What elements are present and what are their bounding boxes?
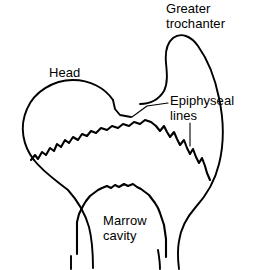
label-greater-trochanter: Greater trochanter [166,2,225,31]
label-marrow-cavity: Marrow cavity [103,214,147,243]
femur-diagram-figure: Greater trochanter Head Epiphyseal lines… [0,0,259,270]
label-epiphyseal-lines: Epiphyseal lines [170,94,234,123]
femoral-head-outline [23,80,113,160]
epiphyseal-line-jagged [31,120,210,180]
epiphyseal-lines-leader-upper [132,103,168,117]
label-head: Head [49,66,80,81]
neck-epiphyseal-junction [113,100,131,117]
femoral-neck-inferior-outline [34,160,93,268]
lateral-cortex-inner-line [158,250,160,269]
greater-trochanter-outline [140,35,223,269]
